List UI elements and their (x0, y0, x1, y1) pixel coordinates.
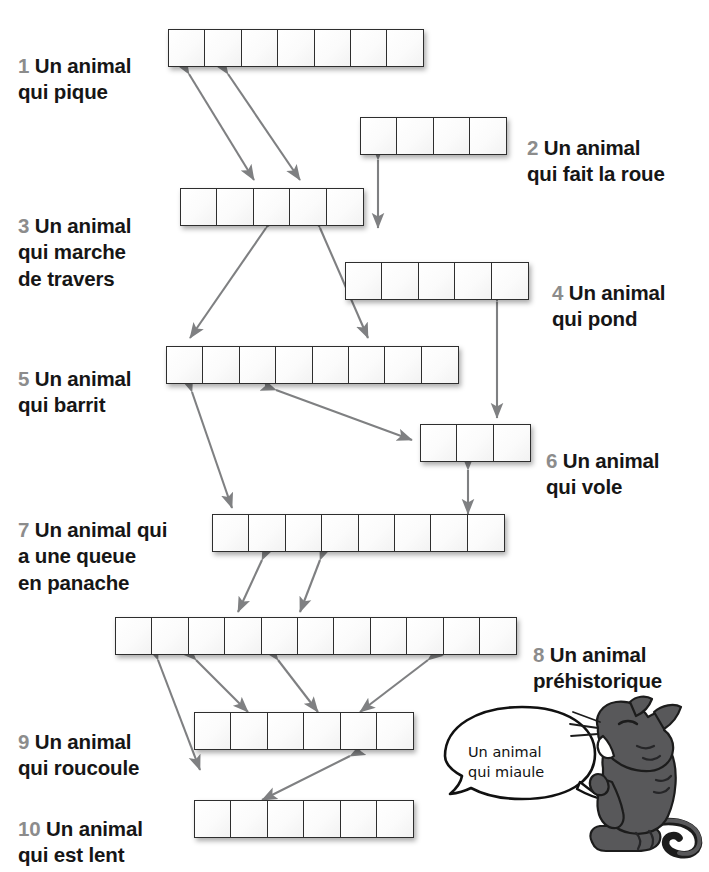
clue-text-5: Un animal qui barrit (18, 367, 131, 417)
clue-label-3: 3 Un animal qui marche de travers (18, 186, 131, 293)
letter-cell[interactable] (350, 29, 388, 67)
letter-cell[interactable] (376, 800, 414, 838)
letter-cell[interactable] (166, 346, 204, 384)
letter-cell[interactable] (454, 262, 492, 300)
answer-grid-4[interactable] (345, 262, 529, 300)
clue-number-8: 8 (533, 643, 550, 666)
clue-number-4: 4 (552, 281, 569, 304)
letter-cell[interactable] (370, 617, 408, 655)
letter-cell[interactable] (443, 617, 481, 655)
letter-cell[interactable] (267, 800, 305, 838)
answer-grid-9[interactable] (194, 712, 414, 750)
letter-cell[interactable] (194, 800, 232, 838)
letter-cell[interactable] (204, 29, 242, 67)
clue-text-6: Un animal qui vole (546, 449, 659, 499)
letter-cell[interactable] (230, 800, 268, 838)
letter-cell[interactable] (430, 514, 468, 552)
cat-and-bubble-graphic (440, 694, 709, 872)
letter-cell[interactable] (180, 188, 218, 226)
letter-cell[interactable] (248, 514, 286, 552)
letter-cell[interactable] (406, 617, 444, 655)
clue-text-7: Un animal qui a une queue en panache (18, 518, 167, 594)
letter-cell[interactable] (253, 188, 291, 226)
clue-text-8: Un animal préhistorique (533, 643, 662, 693)
clue-number-1: 1 (18, 54, 35, 77)
letter-cell[interactable] (340, 712, 378, 750)
letter-cell[interactable] (421, 346, 459, 384)
letter-cell[interactable] (312, 346, 350, 384)
speech-bubble-text: Un animal qui miaule (468, 742, 586, 782)
clue-text-2: Un animal qui fait la roue (527, 136, 665, 186)
letter-cell[interactable] (420, 424, 458, 462)
letter-cell[interactable] (289, 188, 327, 226)
letter-cell[interactable] (314, 29, 352, 67)
letter-cell[interactable] (376, 712, 414, 750)
clue-number-2: 2 (527, 136, 544, 159)
letter-cell[interactable] (360, 117, 398, 155)
answer-grid-3[interactable] (180, 188, 364, 226)
answer-grid-1[interactable] (168, 29, 424, 67)
letter-cell[interactable] (386, 29, 424, 67)
letter-cell[interactable] (418, 262, 456, 300)
clue-label-7: 7 Un animal qui a une queue en panache (18, 490, 167, 597)
clue-number-6: 6 (546, 449, 563, 472)
letter-cell[interactable] (345, 262, 383, 300)
letter-cell[interactable] (326, 188, 364, 226)
letter-cell[interactable] (348, 346, 386, 384)
cat-illustration-area: Un animal qui miaule (440, 694, 709, 872)
answer-grid-2[interactable] (360, 117, 507, 155)
clue-text-4: Un animal qui pond (552, 281, 665, 331)
clue-label-8: 8 Un animal préhistorique (533, 615, 662, 695)
letter-cell[interactable] (321, 514, 359, 552)
answer-grid-7[interactable] (212, 514, 505, 552)
letter-cell[interactable] (168, 29, 206, 67)
clue-number-10: 10 (18, 817, 46, 840)
answer-grid-8[interactable] (115, 617, 517, 655)
letter-cell[interactable] (381, 262, 419, 300)
letter-cell[interactable] (433, 117, 471, 155)
letter-cell[interactable] (212, 514, 250, 552)
clue-text-3: Un animal qui marche de travers (18, 214, 131, 290)
letter-cell[interactable] (297, 617, 335, 655)
answer-grid-5[interactable] (166, 346, 459, 384)
letter-cell[interactable] (469, 117, 507, 155)
clue-number-9: 9 (18, 730, 35, 753)
letter-cell[interactable] (303, 800, 341, 838)
letter-cell[interactable] (230, 712, 268, 750)
letter-cell[interactable] (491, 262, 529, 300)
letter-cell[interactable] (194, 712, 232, 750)
letter-cell[interactable] (384, 346, 422, 384)
letter-cell[interactable] (239, 346, 277, 384)
letter-cell[interactable] (275, 346, 313, 384)
letter-cell[interactable] (358, 514, 396, 552)
clue-label-10: 10 Un animal qui est lent (18, 789, 143, 869)
letter-cell[interactable] (267, 712, 305, 750)
letter-cell[interactable] (261, 617, 299, 655)
letter-cell[interactable] (241, 29, 279, 67)
letter-cell[interactable] (493, 424, 531, 462)
clue-label-6: 6 Un animal qui vole (546, 421, 659, 501)
letter-cell[interactable] (303, 712, 341, 750)
letter-cell[interactable] (216, 188, 254, 226)
letter-cell[interactable] (479, 617, 517, 655)
letter-cell[interactable] (396, 117, 434, 155)
letter-cell[interactable] (188, 617, 226, 655)
letter-cell[interactable] (115, 617, 153, 655)
letter-cell[interactable] (277, 29, 315, 67)
letter-cell[interactable] (151, 617, 189, 655)
letter-cell[interactable] (340, 800, 378, 838)
letter-cell[interactable] (467, 514, 505, 552)
answer-grid-6[interactable] (420, 424, 531, 462)
letter-cell[interactable] (456, 424, 494, 462)
letter-cell[interactable] (224, 617, 262, 655)
answer-grid-10[interactable] (194, 800, 414, 838)
clue-label-2: 2 Un animal qui fait la roue (527, 108, 665, 188)
letter-cell[interactable] (285, 514, 323, 552)
letter-cell[interactable] (202, 346, 240, 384)
clue-text-9: Un animal qui roucoule (18, 730, 139, 780)
letter-cell[interactable] (333, 617, 371, 655)
letter-cell[interactable] (394, 514, 432, 552)
clue-number-5: 5 (18, 367, 35, 390)
clue-label-5: 5 Un animal qui barrit (18, 339, 131, 419)
clue-label-4: 4 Un animal qui pond (552, 253, 665, 333)
